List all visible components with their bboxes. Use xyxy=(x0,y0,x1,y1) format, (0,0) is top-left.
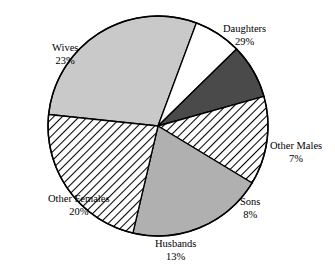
pie-chart-svg xyxy=(0,0,335,271)
slice-label-percent: 20% xyxy=(48,206,110,219)
slice-label-name: Husbands xyxy=(155,238,196,251)
slice-label-other-males: Other Males 7% xyxy=(270,140,322,165)
slice-label-percent: 23% xyxy=(52,55,78,68)
slice-label-daughters: Daughters 29% xyxy=(223,23,266,48)
slice-label-husbands: Husbands 13% xyxy=(155,238,196,263)
slice-label-percent: 8% xyxy=(240,209,260,222)
slice-label-name: Other Males xyxy=(270,140,322,153)
slice-label-other-females: Other Females 20% xyxy=(48,193,110,218)
slice-label-percent: 29% xyxy=(223,36,266,49)
slice-label-wives: Wives 23% xyxy=(52,42,78,67)
slice-label-name: Wives xyxy=(52,42,78,55)
slice-label-percent: 7% xyxy=(270,153,322,166)
slice-label-name: Other Females xyxy=(48,193,110,206)
pie-chart-figure: Daughters 29% Other Males 7% Sons 8% Hus… xyxy=(0,0,335,271)
slice-label-sons: Sons 8% xyxy=(240,196,260,221)
slice-label-name: Daughters xyxy=(223,23,266,36)
slice-label-percent: 13% xyxy=(155,251,196,264)
slice-label-name: Sons xyxy=(240,196,260,209)
